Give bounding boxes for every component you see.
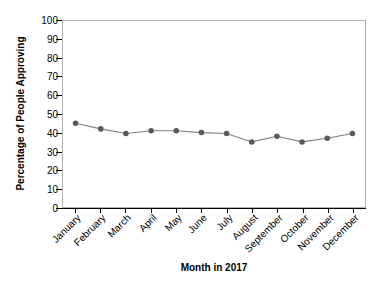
y-axis-tick-mark bbox=[56, 208, 62, 209]
y-axis-tick-label: 90 bbox=[28, 33, 58, 44]
y-axis-tick-label: 70 bbox=[28, 71, 58, 82]
y-axis-tick-label: 0 bbox=[28, 203, 58, 214]
x-axis-line bbox=[62, 208, 366, 209]
series-line bbox=[76, 123, 353, 142]
y-axis-tick-label: 50 bbox=[28, 109, 58, 120]
y-axis-title: Percentage of People Approving bbox=[15, 19, 26, 209]
x-axis-title: Month in 2017 bbox=[62, 262, 366, 273]
data-point-marker bbox=[324, 135, 330, 141]
data-point-marker bbox=[98, 126, 104, 132]
data-point-marker bbox=[148, 128, 154, 134]
chart-figure: Percentage of People Approving 010203040… bbox=[0, 0, 382, 284]
data-point-marker bbox=[299, 139, 305, 145]
y-axis-tick-label: 30 bbox=[28, 146, 58, 157]
y-axis-tick-label: 40 bbox=[28, 127, 58, 138]
data-point-marker bbox=[274, 134, 280, 140]
data-point-marker bbox=[199, 130, 205, 136]
y-axis-tick-label: 10 bbox=[28, 184, 58, 195]
y-axis-tick-label: 100 bbox=[28, 15, 58, 26]
y-axis-tick-label: 60 bbox=[28, 90, 58, 101]
data-point-marker bbox=[249, 139, 255, 145]
y-axis-tick-label: 20 bbox=[28, 165, 58, 176]
y-axis-tick-label: 80 bbox=[28, 52, 58, 63]
plot-area bbox=[62, 20, 366, 208]
data-point-marker bbox=[123, 131, 129, 137]
data-point-marker bbox=[350, 131, 356, 137]
data-point-marker bbox=[224, 131, 230, 137]
line-series-svg bbox=[63, 21, 365, 207]
data-point-marker bbox=[73, 121, 79, 127]
data-point-marker bbox=[173, 128, 179, 134]
